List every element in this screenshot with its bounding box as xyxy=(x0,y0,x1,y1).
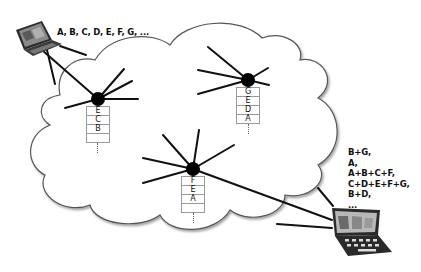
buffer-cell: A xyxy=(236,115,260,124)
node-left-more-indicator xyxy=(97,143,98,153)
received-line: A, xyxy=(348,158,410,169)
buffer-cell xyxy=(181,204,205,213)
received-line: C+D+E+F+G, xyxy=(348,179,410,190)
node-right-buffer: G E D A xyxy=(236,87,260,124)
receiver-laptop-icon xyxy=(332,208,392,256)
received-line: A+B+C+F, xyxy=(348,168,410,179)
network-diagram: A, B, C, D, E, F, G, ... E C B G E D A F… xyxy=(0,0,421,272)
buffer-cell xyxy=(86,134,110,143)
node-left-dot xyxy=(91,92,105,106)
node-right-more-indicator xyxy=(248,124,249,134)
node-center-buffer: F E A xyxy=(181,176,205,213)
received-line: ... xyxy=(348,200,410,211)
buffer-cell: A xyxy=(181,195,205,204)
received-line: B+G, xyxy=(348,147,410,158)
diagram-canvas xyxy=(0,0,421,272)
node-center-more-indicator xyxy=(193,213,194,223)
receiver-packets-label: B+G, A, A+B+C+F, C+D+E+F+G, B+D, ... xyxy=(348,147,410,210)
node-left-buffer: E C B xyxy=(86,106,110,143)
node-right-dot xyxy=(241,73,255,87)
received-line: B+D, xyxy=(348,189,410,200)
buffer-cell: B xyxy=(86,125,110,134)
source-laptop-icon xyxy=(16,21,62,56)
node-center-dot xyxy=(186,162,200,176)
source-packets-label: A, B, C, D, E, F, G, ... xyxy=(57,27,149,38)
